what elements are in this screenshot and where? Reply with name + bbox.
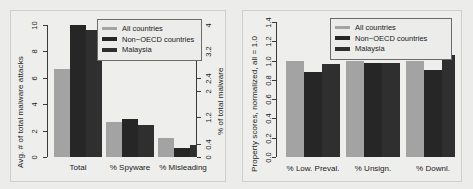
y-tick-right-0p0: [272, 157, 276, 158]
x-ticklabel-spyware: % Spyware: [110, 163, 150, 172]
x-ticklabel-low-preval: % Low. Preval.: [287, 164, 340, 173]
legend-swatch-icon-non-oecd: [102, 37, 117, 41]
legend-left: All countries Non−OECD countries Malaysi…: [97, 19, 202, 61]
y-ticklabel-right-0p0: 0.0: [264, 150, 273, 166]
bar-downl-malaysia: [442, 55, 455, 157]
legend-label-non-oecd: Non−OECD countries: [122, 35, 194, 44]
y-axis-label-left: Avg. # of total malware attacks: [16, 56, 25, 168]
y-ticklabel-left-2: 2: [30, 123, 39, 139]
y-tick-left-2: [43, 131, 47, 132]
legend-label-malaysia: Malaysia: [355, 44, 385, 53]
x-ticklabel-unsign: % Unsign.: [355, 164, 391, 173]
bar-downl-non-oecd: [424, 70, 442, 157]
y-axis-label-right: Property scores, normalized, all = 1.0: [250, 36, 259, 172]
bar-unsign-malaysia: [382, 63, 400, 157]
legend-item-all-countries: All countries: [102, 24, 196, 34]
bar-misleading-non-oecd: [174, 148, 190, 157]
y-ticklabel-left-6: 6: [30, 70, 39, 86]
y2-tick-2p4: [197, 78, 201, 79]
y-tick-left-10: [43, 25, 47, 26]
bar-low-preval-malaysia: [322, 64, 340, 158]
chart-panel-left: Avg. # of total malware attacks % of tot…: [0, 0, 236, 189]
bar-total-non-oecd: [70, 25, 86, 157]
bar-spyware-all-countries: [106, 122, 122, 157]
y2-ticklabel-4: 4: [204, 18, 213, 34]
y-ticklabel-right-1p2: 1.2: [264, 34, 273, 50]
y2-tick-2: [197, 91, 201, 92]
legend-swatch-icon-malaysia: [335, 47, 350, 51]
x-ticklabel-downl: % Downl.: [416, 164, 450, 173]
legend-swatch-icon-non-oecd: [335, 36, 350, 40]
y-tick-right-1p2: [272, 41, 276, 42]
y-ticklabel-left-4: 4: [30, 97, 39, 113]
y-ticklabel-left-0: 0: [30, 150, 39, 166]
legend-swatch-icon-malaysia: [102, 48, 117, 52]
legend-item-non-oecd: Non−OECD countries: [335, 33, 446, 43]
y-ticklabel-left-8: 8: [30, 44, 39, 60]
y-tick-right-0p8: [272, 80, 276, 81]
bar-total-all-countries: [54, 69, 70, 157]
y-tick-left-4: [43, 104, 47, 105]
legend-swatch-icon-all-countries: [102, 27, 117, 31]
y-tick-right-0p6: [272, 99, 276, 100]
y-ticklabel-right-0p8: 0.8: [264, 72, 273, 88]
bar-unsign-non-oecd: [364, 63, 382, 157]
legend-label-all-countries: All countries: [122, 24, 163, 33]
bar-unsign-all-countries: [346, 61, 364, 157]
y2-ticklabel-0p4: 0.4: [204, 133, 213, 155]
y-ticklabel-right-0p2: 0.2: [264, 130, 273, 146]
y-ticklabel-right-1p0: 1.0: [264, 53, 273, 69]
y-ticklabel-right-1p4: 1.4: [264, 15, 273, 31]
figure: Avg. # of total malware attacks % of tot…: [0, 0, 473, 189]
bar-downl-all-countries: [406, 61, 424, 157]
y2-ticklabel-2p4: 2.4: [204, 67, 213, 89]
legend-label-malaysia: Malaysia: [122, 45, 152, 54]
bar-misleading-malaysia: [190, 145, 196, 158]
legend-swatch-icon-all-countries: [335, 26, 350, 30]
legend-item-all-countries: All countries: [335, 23, 446, 33]
y-ticklabel-left-10: 10: [30, 18, 39, 34]
bar-low-preval-non-oecd: [304, 72, 322, 157]
y2-ticklabel-3p2: 3.2: [204, 41, 213, 63]
legend-item-non-oecd: Non−OECD countries: [102, 34, 196, 44]
y2-ticklabel-1p2: 1.2: [204, 107, 213, 129]
x-ticklabel-total: Total: [70, 163, 87, 172]
legend-item-malaysia: Malaysia: [335, 44, 446, 54]
y-tick-left-6: [43, 78, 47, 79]
legend-label-all-countries: All countries: [355, 23, 396, 32]
y-ticklabel-right-0p6: 0.6: [264, 92, 273, 108]
legend-item-malaysia: Malaysia: [102, 45, 196, 55]
y2-tick-1p2: [197, 117, 201, 118]
y-ticklabel-right-0p4: 0.4: [264, 111, 273, 127]
legend-label-non-oecd: Non−OECD countries: [355, 34, 427, 43]
y-tick-left-8: [43, 51, 47, 52]
bar-misleading-all-countries: [158, 138, 174, 157]
y-tick-right-0p2: [272, 138, 276, 139]
legend-right: All countries Non−OECD countries Malaysi…: [330, 18, 452, 60]
y-tick-right-0p4: [272, 118, 276, 119]
y2-tick-0: [197, 157, 201, 158]
chart-panel-right: Property scores, normalized, all = 1.0 0…: [236, 0, 473, 189]
y-axis-label-left-secondary: % of total malware: [216, 67, 225, 135]
y2-tick-0p4: [197, 144, 201, 145]
bar-low-preval-all-countries: [286, 61, 304, 157]
x-ticklabel-misleading: % Misleading: [159, 163, 207, 172]
y-tick-left-0: [43, 157, 47, 158]
y-tick-right-1p0: [272, 61, 276, 62]
bar-spyware-non-oecd: [122, 119, 138, 157]
bar-spyware-malaysia: [138, 125, 154, 157]
y-tick-right-1p4: [272, 22, 276, 23]
